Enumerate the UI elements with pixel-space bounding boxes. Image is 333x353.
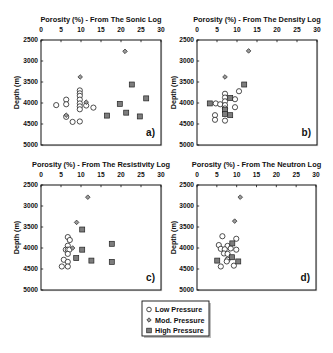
plot-area (41, 40, 161, 145)
y-tick-label: 3000 (23, 57, 38, 64)
y-tick-label: 4500 (23, 120, 38, 127)
y-tick-label: 3000 (179, 57, 194, 64)
y-tick-label: 3500 (23, 78, 38, 85)
y-tick-label: 3500 (179, 223, 194, 230)
x-tick-label: 10 (77, 171, 85, 178)
data-point-low-pressure (232, 105, 237, 110)
data-point-high-pressure (223, 111, 228, 116)
x-tick-label: 20 (273, 26, 281, 33)
y-tick-label: 5000 (23, 141, 38, 148)
data-point-low-pressure (232, 97, 237, 102)
x-tick-label: 20 (117, 171, 125, 178)
data-point-high-pressure (229, 255, 234, 260)
data-point-low-pressure (77, 107, 82, 112)
x-tick-label: 5 (59, 171, 63, 178)
x-tick-label: 5 (59, 26, 63, 33)
legend-label-low: Low Pressure (155, 305, 202, 314)
data-point-low-pressure (236, 89, 241, 94)
plot-area (41, 185, 161, 290)
y-tick-label: 4000 (23, 99, 38, 106)
y-tick-label: 4000 (179, 244, 194, 251)
y-tick-label: 5000 (179, 286, 194, 293)
x-tick-label: 10 (233, 171, 241, 178)
y-tick-label: 2500 (23, 36, 38, 43)
x-tick-label: 25 (137, 26, 145, 33)
x-tick-label: 30 (157, 171, 165, 178)
x-tick-label: 15 (253, 26, 261, 33)
data-point-high-pressure (230, 241, 235, 246)
y-tick-label: 4500 (23, 265, 38, 272)
data-point-high-pressure (109, 259, 114, 264)
y-tick-label: 2500 (23, 181, 38, 188)
circle-marker-icon (147, 307, 152, 312)
data-point-high-pressure (137, 114, 142, 119)
x-axis-title: Porosity (%) - From The Density Log (193, 15, 321, 24)
x-tick-label: 10 (233, 26, 241, 33)
data-point-low-pressure (77, 119, 82, 124)
data-point-low-pressure (91, 105, 96, 110)
data-point-high-pressure (228, 95, 233, 100)
data-point-high-pressure (74, 256, 79, 261)
data-point-low-pressure (212, 117, 217, 122)
x-tick-label: 30 (312, 171, 320, 178)
legend-item-mod: Mod. Pressure (147, 316, 205, 325)
x-axis-title: Porosity (%) - From The Resistivity Log (32, 160, 170, 169)
y-tick-label: 4500 (179, 265, 194, 272)
legend-item-low: Low Pressure (147, 305, 202, 314)
x-tick-label: 30 (313, 26, 321, 33)
panel-label: a) (146, 127, 155, 138)
data-point-high-pressure (89, 258, 94, 263)
data-point-low-pressure (59, 264, 64, 269)
plot-area (197, 40, 317, 145)
x-tick-label: 15 (97, 171, 105, 178)
x-tick-label: 25 (293, 26, 301, 33)
data-point-high-pressure (236, 259, 241, 264)
y-tick-label: 3000 (23, 202, 38, 209)
data-point-high-pressure (80, 227, 85, 232)
x-tick-label: 0 (39, 26, 43, 33)
data-point-low-pressure (228, 246, 233, 251)
data-point-high-pressure (80, 247, 85, 252)
y-tick-label: 5000 (23, 286, 38, 293)
x-tick-label: 25 (137, 171, 145, 178)
legend-item-high: High Pressure (147, 326, 204, 335)
data-point-high-pressure (207, 101, 212, 106)
y-axis-title: Depth (m) (169, 75, 178, 109)
data-point-low-pressure (218, 102, 223, 107)
figure: Porosity (%) - From The Sonic Log0510152… (0, 0, 333, 353)
x-tick-label: 10 (77, 26, 85, 33)
data-point-high-pressure (109, 241, 114, 246)
data-point-high-pressure (124, 110, 129, 115)
x-tick-label: 15 (253, 171, 261, 178)
data-point-high-pressure (129, 82, 134, 87)
panel-label: b) (302, 127, 311, 138)
data-point-low-pressure (67, 237, 72, 242)
y-tick-label: 2500 (179, 36, 194, 43)
x-tick-label: 0 (195, 26, 199, 33)
data-point-high-pressure (117, 101, 122, 106)
x-tick-label: 5 (215, 26, 219, 33)
y-tick-label: 3000 (179, 202, 194, 209)
data-point-low-pressure (218, 264, 223, 269)
y-tick-label: 3500 (23, 223, 38, 230)
y-tick-label: 3500 (179, 78, 194, 85)
data-point-high-pressure (242, 82, 247, 87)
x-tick-label: 0 (195, 171, 199, 178)
data-point-low-pressure (220, 234, 225, 239)
y-tick-label: 2500 (179, 181, 194, 188)
y-axis-title: Depth (m) (12, 75, 21, 109)
y-tick-label: 4000 (23, 244, 38, 251)
data-point-high-pressure (144, 96, 149, 101)
legend: Low Pressure Mod. Pressure High Pressure (142, 301, 211, 338)
legend-label-mod: Mod. Pressure (155, 316, 205, 325)
data-point-high-pressure (228, 113, 233, 118)
panel-label: c) (146, 272, 155, 283)
x-tick-label: 20 (117, 26, 125, 33)
data-point-low-pressure (224, 259, 229, 264)
plot-area (197, 185, 316, 290)
x-tick-label: 30 (157, 26, 165, 33)
y-tick-label: 5000 (179, 141, 194, 148)
legend-label-high: High Pressure (155, 326, 204, 335)
square-marker-icon (147, 328, 152, 333)
x-axis-title: Porosity (%) - From The Sonic Log (40, 15, 162, 24)
